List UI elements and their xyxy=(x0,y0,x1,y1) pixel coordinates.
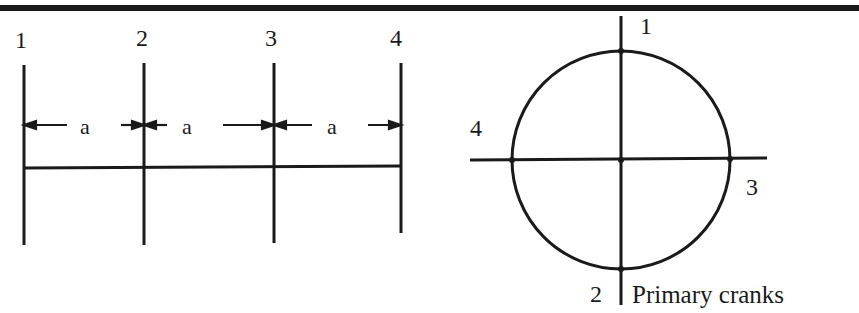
arrow-left-icon xyxy=(144,121,156,129)
crank-label-3: 3 xyxy=(265,25,277,51)
circle-label-4: 4 xyxy=(470,115,482,141)
top-rule xyxy=(0,5,859,11)
crank-layout xyxy=(24,63,401,245)
spacing-label-1: a xyxy=(80,114,90,139)
crank-label-4: 4 xyxy=(390,25,402,51)
crank-label-1: 1 xyxy=(15,27,27,53)
shaft-line xyxy=(24,166,401,168)
spacing-label-3: a xyxy=(327,114,337,139)
arrow-right-icon xyxy=(389,121,401,129)
circle-label-2: 2 xyxy=(590,281,602,307)
diagram-caption: Primary cranks xyxy=(632,281,784,308)
crank-labels: 1 2 3 4 a a a xyxy=(15,25,402,139)
spacing-label-2: a xyxy=(182,114,192,139)
crank-label-2: 2 xyxy=(136,25,148,51)
circle-label-3: 3 xyxy=(746,174,758,200)
arrow-left-icon xyxy=(274,121,286,129)
arrow-left-icon xyxy=(24,121,36,129)
circle-label-1: 1 xyxy=(640,13,652,39)
diagram-canvas: 1 2 3 4 a a a 1 4 3 2 Primary cranks xyxy=(0,0,859,313)
